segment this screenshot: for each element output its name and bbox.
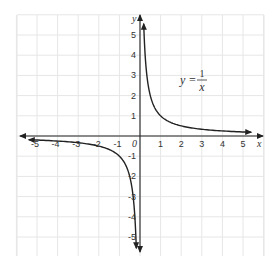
y-tick-label: -2	[128, 171, 136, 181]
x-tick-label: -1	[113, 139, 121, 149]
equation-lhs: y =	[179, 73, 196, 87]
y-tick-label: 5	[131, 30, 136, 40]
x-tick-label: -3	[72, 139, 80, 149]
x-tick-label: 5	[240, 139, 245, 149]
x-tick-label: -2	[93, 139, 101, 149]
y-tick-label: 3	[131, 70, 136, 80]
x-tick-label: -5	[31, 139, 39, 149]
y-tick-label: -5	[128, 232, 136, 242]
x-axis-label: x	[256, 138, 262, 149]
y-tick-label: 1	[131, 111, 136, 121]
hyperbola-chart: -5-4-3-2-112345-5-4-3-2-112345 x y 0 y =…	[0, 0, 279, 268]
equation-denominator: x	[198, 80, 205, 94]
equation-numerator: 1	[200, 68, 205, 79]
y-tick-label: -3	[128, 192, 136, 202]
x-tick-label: 3	[199, 139, 204, 149]
y-tick-label: 2	[131, 91, 136, 101]
x-tick-label: 4	[220, 139, 225, 149]
equation-label: y = 1 x	[179, 68, 207, 94]
x-tick-label: 1	[158, 139, 163, 149]
y-tick-label: -4	[128, 212, 136, 222]
origin-label: 0	[132, 138, 137, 149]
y-tick-label: -1	[128, 151, 136, 161]
x-tick-label: -4	[52, 139, 60, 149]
x-tick-label: 2	[179, 139, 184, 149]
y-tick-label: 4	[131, 50, 136, 60]
y-axis-label: y	[131, 13, 137, 24]
